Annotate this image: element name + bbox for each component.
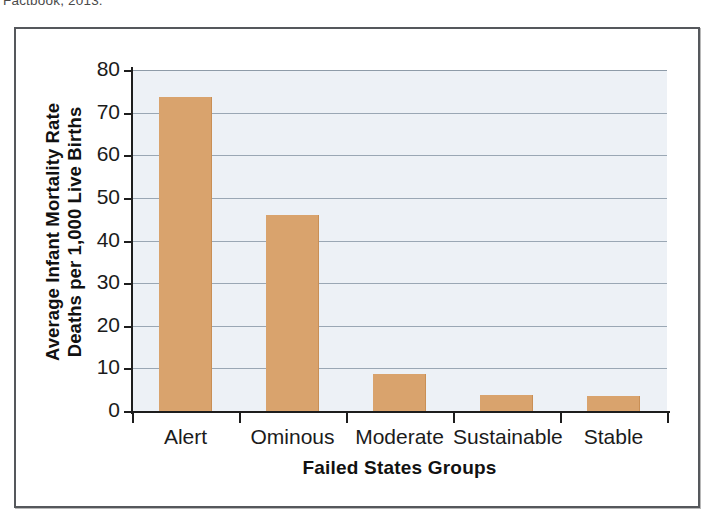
x-axis-title: Failed States Groups: [132, 457, 667, 479]
y-axis-tick: [124, 283, 133, 285]
x-axis-category-label: Stable: [560, 425, 667, 449]
gridline: [132, 283, 667, 284]
x-axis-category-label: Alert: [132, 425, 239, 449]
bar: [480, 395, 534, 411]
bar: [373, 374, 427, 411]
plot-area: [132, 70, 667, 411]
figure-frame: 80706050403020100 AlertOminousModerateSu…: [14, 27, 700, 508]
x-axis-line: [128, 411, 670, 413]
y-axis-tick: [124, 113, 133, 115]
x-axis-tick: [346, 413, 348, 423]
x-axis-category-label: Ominous: [239, 425, 346, 449]
gridline: [132, 155, 667, 156]
y-axis-tick: [124, 368, 133, 370]
bar: [159, 97, 213, 411]
bar: [587, 396, 641, 411]
gridline: [132, 113, 667, 114]
figure-source-caption: Factbook, 2013.: [3, 0, 103, 7]
x-axis-tick: [132, 413, 134, 423]
x-axis-category-labels: AlertOminousModerateSustainableStable: [132, 425, 667, 459]
y-axis-title-line-2: Deaths per 1,000 Live Births: [64, 62, 86, 402]
x-axis-tick: [239, 413, 241, 423]
y-axis-tick: [124, 326, 133, 328]
gridline: [132, 326, 667, 327]
y-axis-tick: [124, 70, 133, 72]
gridline: [132, 368, 667, 369]
y-axis-tick: [124, 241, 133, 243]
x-axis-tick: [667, 413, 669, 423]
y-axis-title-line-1: Average Infant Mortality Rate: [42, 62, 64, 402]
bar-chart: 80706050403020100 AlertOminousModerateSu…: [16, 29, 702, 510]
y-axis-tick: [124, 155, 133, 157]
x-axis-tick: [560, 413, 562, 423]
y-axis-tick: [124, 198, 133, 200]
x-axis-category-label: Moderate: [346, 425, 453, 449]
bar: [266, 215, 320, 411]
gridline: [132, 198, 667, 199]
y-axis-title: Average Infant Mortality Rate Deaths per…: [42, 62, 86, 402]
x-axis-tick: [453, 413, 455, 423]
gridline: [132, 241, 667, 242]
gridline: [132, 70, 667, 71]
x-axis-category-label: Sustainable: [453, 425, 560, 449]
